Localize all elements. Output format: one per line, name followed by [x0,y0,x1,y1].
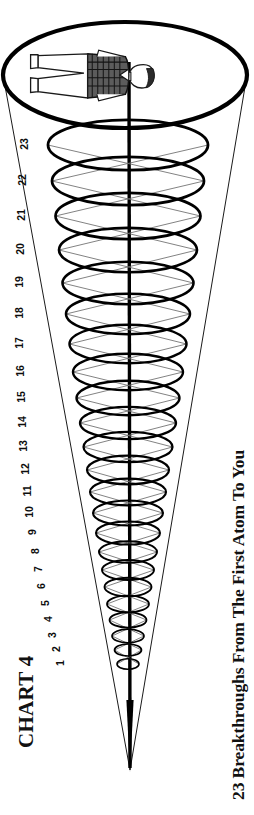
ring-number-label: 3 [46,627,58,643]
ring-number-label: 2 [50,641,62,657]
cone-outline [3,75,247,770]
ring-number-label: 10 [23,504,35,520]
ring-number-label: 7 [32,561,44,577]
ring-number-label: 12 [19,461,31,477]
ring-number-label: 9 [26,524,38,540]
human-figure [31,50,155,101]
ring-ellipse [110,612,147,627]
ring-number-label: 22 [16,172,28,188]
ring-number-label: 11 [21,483,33,499]
chart-figure: 1234567891011121314151617181920212223 CH… [0,0,254,815]
ring-ellipse [107,596,149,613]
figure-arm-left [97,50,125,56]
figure-legs [38,54,88,98]
ring-ellipse [115,644,142,656]
ring-ellipse [117,659,139,669]
figure-arm-right [97,94,125,100]
ring-number-label: 16 [14,363,26,379]
ring-number-label: 5 [39,595,51,611]
ring-number-label: 19 [13,274,25,290]
chart-caption: 23 Breakthroughs From The First Atom To … [228,450,249,800]
ring-number-label: 18 [13,305,25,321]
ring-number-label: 8 [29,543,41,559]
ring-number-label: 14 [16,414,28,430]
ring-ellipse [112,629,144,643]
ring-number-label: 21 [15,207,27,223]
ring-number-label: 1 [54,655,66,671]
ring-number-label: 15 [15,389,27,405]
page-title: CHART 4 [14,655,39,748]
ring-number-label: 6 [35,578,47,594]
ring-number-label: 4 [42,611,54,627]
ring-number-label: 23 [18,136,30,152]
ring-number-label: 13 [17,438,29,454]
figure-shoe-right [31,78,38,93]
ring-number-label: 20 [14,241,26,257]
figure-shoe-left [31,55,38,69]
ring-number-label: 17 [13,335,25,351]
cone-apex [126,700,133,772]
